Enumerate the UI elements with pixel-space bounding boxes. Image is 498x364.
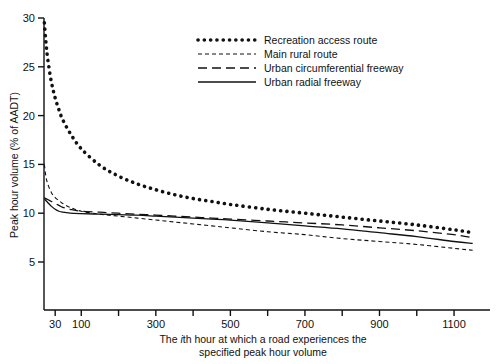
x-tick-label: 1100 (442, 318, 466, 330)
y-tick-label: 10 (23, 207, 35, 219)
y-axis-title: Peak hour volume (% of AADT) (8, 92, 20, 238)
x-tick-label: 300 (147, 318, 165, 330)
y-tick-label: 25 (23, 61, 35, 73)
y-tick-label: 30 (23, 12, 35, 24)
x-tick-label: 500 (221, 318, 239, 330)
y-tick-label: 20 (23, 110, 35, 122)
x-tick-label: 700 (296, 318, 314, 330)
legend-label: Main rural route (264, 48, 338, 60)
y-tick-label: 5 (29, 256, 35, 268)
x-tick-label: 100 (72, 318, 90, 330)
y-tick-label: 15 (23, 158, 35, 170)
legend-label: Recreation access route (264, 34, 377, 46)
chart-figure: 51015202530 301003005007009001100 Recrea… (0, 0, 498, 364)
x-tick-label: 900 (370, 318, 388, 330)
legend-label: Urban circumferential freeway (264, 62, 404, 74)
x-axis-title-line1: The ith hour at which a road experiences… (159, 333, 366, 345)
legend-label: Urban radial freeway (264, 76, 362, 88)
x-tick-label: 30 (49, 318, 61, 330)
x-axis-title-line2: specified peak hour volume (199, 346, 327, 358)
line-chart: 51015202530 301003005007009001100 Recrea… (0, 0, 498, 364)
